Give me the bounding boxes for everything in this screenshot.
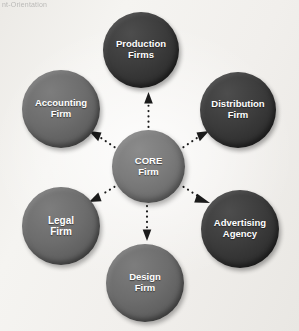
node-distribution-firm[interactable]: Distribution Firm (200, 72, 276, 148)
node-accounting-firm[interactable]: Accounting Firm (22, 70, 100, 148)
diagram-canvas: nt-Orientation (0, 0, 299, 331)
node-legal-firm[interactable]: Legal Firm (22, 187, 100, 265)
connector-core-to-design (143, 206, 152, 241)
node-design-firm-label: Design Firm (126, 272, 164, 293)
arrowhead-design (143, 230, 152, 242)
node-distribution-firm-label: Distribution Firm (208, 99, 267, 120)
node-advertising-agency[interactable]: Advertising Agency (201, 190, 279, 268)
connector-core-to-accounting (89, 131, 119, 150)
node-production-firms-label: Production Firms (113, 39, 169, 60)
connector-core-to-legal (89, 184, 119, 202)
arrowhead-advertising (194, 194, 210, 203)
arrowhead-production (144, 92, 153, 104)
caption-fragment: nt-Orientation (2, 0, 122, 9)
node-legal-firm-label: Legal Firm (45, 215, 77, 237)
node-core-firm-label: CORE Firm (132, 156, 165, 177)
node-production-firms[interactable]: Production Firms (103, 12, 179, 88)
node-accounting-firm-label: Accounting Firm (32, 98, 90, 119)
node-design-firm[interactable]: Design Firm (106, 244, 184, 322)
node-core-firm[interactable]: CORE Firm (112, 130, 185, 203)
connector-core-to-distribution (179, 131, 209, 150)
node-advertising-agency-label: Advertising Agency (211, 218, 269, 239)
connector-core-to-advertising (179, 184, 210, 203)
connector-core-to-production (144, 92, 153, 127)
